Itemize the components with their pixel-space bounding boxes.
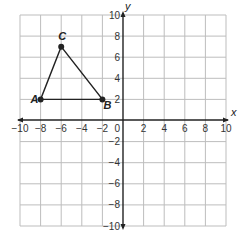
x-axis-label: x [230,106,237,118]
x-tick-label: 4 [161,123,167,134]
triangle-outline [41,47,103,100]
y-tick-label: 2 [114,94,120,105]
y-tick-label: 8 [114,31,120,42]
x-tick-label: 6 [182,123,188,134]
x-tick-label: −8 [35,123,47,134]
y-tick-label: 6 [114,52,120,63]
x-tick-label: −6 [55,123,67,134]
x-tick-label: 2 [141,123,147,134]
y-tick-label: −8 [109,199,121,210]
point-label-a: A [30,93,39,105]
x-tick-label: −10 [12,123,29,134]
x-tick-label: −4 [76,123,88,134]
y-tick-label: −4 [109,157,121,168]
y-tick-label: −2 [109,136,121,147]
y-tick-label: −6 [109,178,121,189]
coordinate-plane: xy −10−8−6−4−2246810108642−2−4−6−8−100 A… [0,0,240,241]
x-tick-label: −2 [97,123,109,134]
origin-label: 0 [114,123,120,134]
x-tick-label: 8 [203,123,209,134]
triangle-abc: ABC [30,30,112,112]
x-tick-label: 10 [220,123,232,134]
y-axis-label: y [124,0,132,12]
axes: xy [17,0,237,230]
point-label-b: B [103,99,111,111]
y-tick-label: 10 [109,10,121,21]
y-tick-label: 4 [114,73,120,84]
y-axis-down-arrow-icon [121,224,126,230]
point-label-c: C [58,30,67,42]
point-c [58,44,64,50]
y-tick-label: −10 [103,221,120,232]
